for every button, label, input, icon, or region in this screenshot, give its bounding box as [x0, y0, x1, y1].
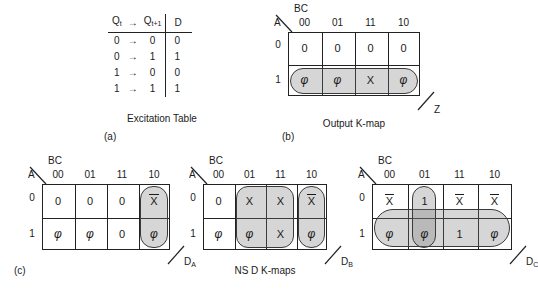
dc-kmap-cell-r1c3: φ [477, 217, 512, 250]
header-d: D [166, 14, 192, 33]
cell-to: 0 [140, 65, 166, 81]
output-kmap-cell-r1c3: φ [387, 64, 420, 96]
excitation-table-caption: Excitation Table [108, 113, 216, 124]
cell-from: 0 [108, 33, 126, 50]
da-kmap-cell-r0c2: 0 [106, 184, 138, 217]
output-kmap-cell-r0c3: 0 [387, 32, 420, 64]
overbar-x: X [386, 195, 393, 207]
overbar-x: X [456, 195, 463, 207]
da-kmap-cell-r1c2: 0 [106, 217, 138, 250]
cell-to: 0 [140, 33, 166, 50]
cell-to: 1 [140, 81, 166, 97]
da-kmap-col-header-11: 11 [106, 169, 138, 180]
dc-kmap-cell-r0c3: X [477, 184, 512, 217]
output-kmap-caption: Output K-map [288, 118, 420, 129]
output-kmap-cell-r0c0: 0 [288, 32, 321, 64]
output-kmap-cell-r1c2: X [354, 64, 387, 96]
cell-arrow: → [126, 49, 140, 65]
db-kmap-cell-r1c3: φ [296, 217, 327, 250]
db-kmap-cell-r0c3: X [296, 184, 327, 217]
figure-label-b: (b) [282, 131, 294, 142]
bottom-caption: NS D K-maps [180, 265, 350, 276]
output-kmap-bc-label: BC [294, 3, 308, 14]
cell-arrow: → [126, 81, 140, 97]
db-kmap-row-header-1: 1 [187, 228, 199, 239]
da-kmap-row-header-1: 1 [26, 228, 38, 239]
cell-from: 1 [108, 65, 126, 81]
excitation-table: Qt → Qt+1 D 0 → 0 0 0 → 1 1 1 → 0 [108, 14, 216, 97]
da-kmap-row-header-0: 0 [26, 192, 38, 203]
db-kmap-col-header-10: 10 [296, 169, 327, 180]
cell-d: 0 [166, 33, 192, 50]
table-row: 1 → 1 1 [108, 81, 192, 97]
dc-kmap-cell-r1c1: φ [407, 217, 442, 250]
dc-kmap-row-header-1: 1 [356, 228, 368, 239]
db-kmap-cell-r1c2: X [265, 217, 296, 250]
dc-kmap-bc-label: BC [378, 155, 392, 166]
overbar-x: X [150, 195, 157, 207]
da-kmap-bc-label: BC [48, 155, 62, 166]
cell-d: 0 [166, 65, 192, 81]
output-kmap-cell-r1c0: φ [288, 64, 321, 96]
output-kmap-output-name: Z [434, 104, 440, 115]
overbar-x: X [491, 195, 498, 207]
db-kmap-col-header-00: 00 [203, 169, 234, 180]
da-kmap-col-header-01: 01 [74, 169, 106, 180]
db-kmap-col-header-11: 11 [265, 169, 296, 180]
output-kmap-col-header-10: 10 [387, 17, 420, 28]
dc-kmap-row-header-0: 0 [356, 192, 368, 203]
output-kmap-row-header-0: 0 [272, 39, 284, 50]
db-kmap-cell-r1c0: φ [203, 217, 234, 250]
db-kmap-row-header-0: 0 [187, 192, 199, 203]
header-q-t: Qt [108, 14, 126, 33]
dc-kmap-col-header-01: 01 [407, 169, 442, 180]
da-kmap-cell-r0c1: 0 [74, 184, 106, 217]
dc-kmap-col-header-10: 10 [477, 169, 512, 180]
db-kmap-bc-label: BC [209, 155, 223, 166]
db-kmap-cell-r1c1: φ [234, 217, 265, 250]
da-kmap-cell-r0c0: 0 [42, 184, 74, 217]
cell-from: 1 [108, 81, 126, 97]
output-kmap-col-header-11: 11 [354, 17, 387, 28]
output-kmap-cell-r0c2: 0 [354, 32, 387, 64]
cell-d: 1 [166, 49, 192, 65]
cell-arrow: → [126, 33, 140, 50]
output-kmap-col-header-01: 01 [321, 17, 354, 28]
header-q-next-subscript: t+1 [152, 20, 162, 27]
da-kmap-cell-r1c1: φ [74, 217, 106, 250]
output-kmap-cell-r1c1: φ [321, 64, 354, 96]
header-q-t-subscript: t [120, 20, 122, 27]
cell-d: 1 [166, 81, 192, 97]
cell-arrow: → [126, 65, 140, 81]
dc-kmap-cell-r0c0: X [372, 184, 407, 217]
dc-kmap-output-subscript: C [533, 261, 538, 268]
header-arrow: → [126, 14, 140, 33]
excitation-table-body: 0 → 0 0 0 → 1 1 1 → 0 0 1 → 1 1 [108, 33, 192, 98]
da-kmap-cell-r1c3: φ [138, 217, 170, 250]
da-kmap-col-header-10: 10 [138, 169, 170, 180]
figure-label-a: (a) [104, 131, 116, 142]
table-row: 0 → 1 1 [108, 49, 192, 65]
da-kmap-col-header-00: 00 [42, 169, 74, 180]
figure-label-c: (c) [14, 265, 26, 276]
dc-kmap-col-header-11: 11 [442, 169, 477, 180]
dc-kmap-output-name: DC [526, 256, 538, 268]
output-kmap-col-header-00: 00 [288, 17, 321, 28]
da-kmap-cell-r0c3: X [138, 184, 170, 217]
db-kmap-cell-r0c0: 0 [203, 184, 234, 217]
db-kmap-cell-r0c1: X [234, 184, 265, 217]
cell-from: 0 [108, 49, 126, 65]
table-row: 0 → 0 0 [108, 33, 192, 50]
table-row: 1 → 0 0 [108, 65, 192, 81]
output-kmap-cell-r0c1: 0 [321, 32, 354, 64]
dc-kmap-cell-r1c2: 1 [442, 217, 477, 250]
table-header-row: Qt → Qt+1 D [108, 14, 192, 33]
db-kmap-col-header-01: 01 [234, 169, 265, 180]
header-q-next: Qt+1 [140, 14, 166, 33]
dc-kmap-col-header-00: 00 [372, 169, 407, 180]
dc-kmap-cell-r1c0: φ [372, 217, 407, 250]
output-kmap-row-header-1: 1 [272, 74, 284, 85]
db-kmap-cell-r0c2: X [265, 184, 296, 217]
da-kmap-cell-r1c0: φ [42, 217, 74, 250]
excitation-table-grid: Qt → Qt+1 D 0 → 0 0 0 → 1 1 1 → 0 [108, 14, 192, 97]
